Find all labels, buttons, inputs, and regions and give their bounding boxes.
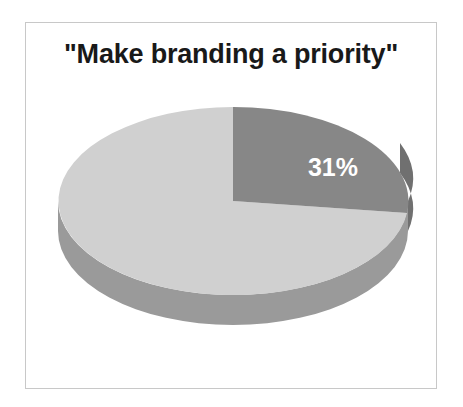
chart-frame: "Make branding a priority" 31% — [25, 22, 437, 389]
pie-chart-svg — [26, 23, 438, 390]
pie-chart: 31% — [26, 23, 438, 390]
pie-slice-branding — [233, 107, 408, 213]
